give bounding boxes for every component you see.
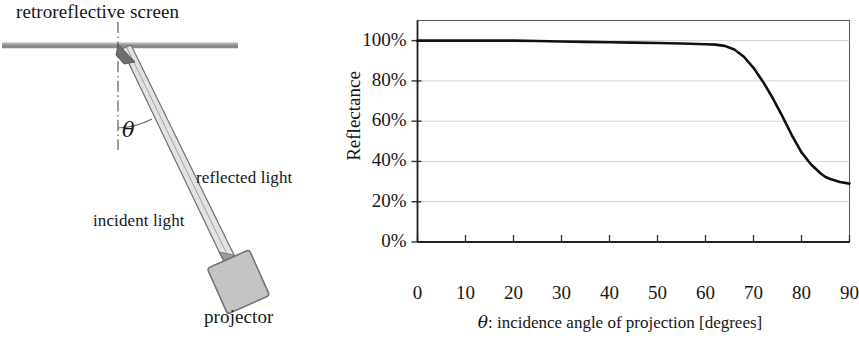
x-tick-label: 90 — [830, 282, 859, 304]
x-axis-title-text: : incidence angle of projection [degrees… — [488, 313, 762, 332]
projector-label: projector — [204, 306, 273, 328]
x-tick-label: 40 — [590, 282, 630, 304]
y-tick-label: 60% — [345, 109, 407, 131]
optical-schematic-diagram: retroreflective screen reflected light i… — [0, 0, 330, 344]
retroreflective-screen-figure: retroreflective screen reflected light i… — [0, 0, 859, 344]
x-tick-label: 0 — [398, 282, 438, 304]
incident-light-label: incident light — [93, 211, 185, 231]
x-tick-label: 50 — [638, 282, 678, 304]
y-tick-label: 80% — [345, 69, 407, 91]
x-axis-title-symbol: θ — [478, 312, 488, 332]
x-axis-title: θ: incidence angle of projection [degree… — [410, 312, 830, 333]
theta-angle-label: θ — [122, 118, 135, 142]
reflected-light-label: reflected light — [196, 168, 292, 188]
x-tick-label: 30 — [542, 282, 582, 304]
projector-body — [207, 250, 269, 314]
x-tick-label: 20 — [494, 282, 534, 304]
x-tick-label: 70 — [734, 282, 774, 304]
y-tick-label: 100% — [345, 29, 407, 51]
y-tick-label: 0% — [345, 230, 407, 252]
plot-frame — [418, 21, 850, 243]
x-tick-label: 80 — [782, 282, 822, 304]
retroreflective-screen-label: retroreflective screen — [16, 1, 179, 23]
y-tick-label: 40% — [345, 149, 407, 171]
y-tick-label: 20% — [345, 190, 407, 212]
light-beam-group — [122, 45, 236, 264]
x-tick-label: 10 — [446, 282, 486, 304]
x-tick-label: 60 — [686, 282, 726, 304]
reflectance-vs-incidence-angle-chart: Reflectance θ: incidence angle of projec… — [330, 0, 859, 344]
